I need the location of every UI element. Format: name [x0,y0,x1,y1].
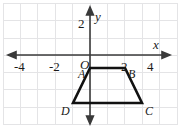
y-axis-arrow-down [87,116,94,124]
y-axis-arrow-up [87,7,94,15]
x-axis-arrow-left [8,52,16,59]
vertex-label-c: C [145,105,153,117]
y-tick-label-2: 2 [78,17,85,30]
coordinate-plane-figure: -4 -2 2 4 2 O x y A B C D [0,0,180,128]
x-tick-label-neg4: -4 [14,60,25,73]
vertex-label-a: A [78,68,85,80]
x-tick-label-2: 2 [121,60,128,73]
x-axis-label: x [153,38,159,51]
y-axis-label: y [95,10,101,23]
x-axis-arrow-right [162,52,170,59]
x-tick-label-neg2: -2 [49,60,60,73]
vertex-label-d: D [61,105,70,117]
x-tick-label-4: 4 [147,60,154,73]
vertex-label-b: B [128,68,135,80]
